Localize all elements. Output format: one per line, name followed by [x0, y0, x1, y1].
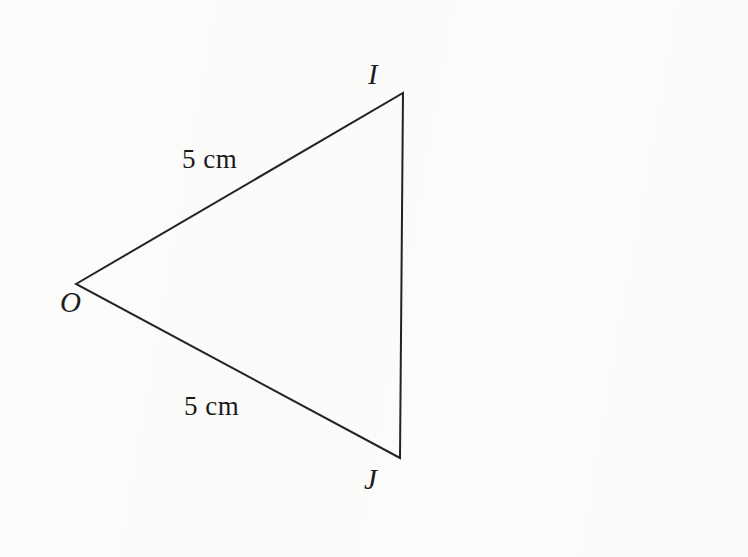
vertex-label-i: I	[368, 60, 378, 89]
edge-length-label-oi: 5 cm	[182, 146, 237, 173]
geometry-figure: O I J 5 cm 5 cm	[0, 0, 748, 557]
edge-length-label-oj: 5 cm	[184, 393, 239, 420]
triangle-oij-outline	[76, 93, 403, 458]
vertex-label-o: O	[60, 288, 81, 317]
vertex-label-j: J	[364, 465, 377, 494]
